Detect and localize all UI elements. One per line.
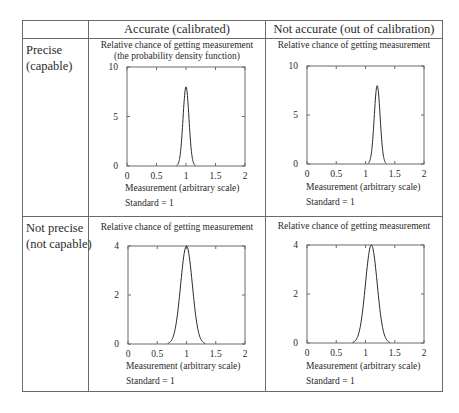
y-tick-label: 4	[293, 240, 298, 250]
plot-frame	[307, 245, 424, 343]
y-tick-label: 0	[293, 338, 298, 348]
chart-not-precise-not-accurate: 00.511.52024	[0, 0, 459, 413]
standard-annotation: Standard = 1	[306, 376, 355, 386]
x-tick-label: 0.5	[330, 348, 342, 358]
x-tick-label: 1.5	[389, 348, 401, 358]
x-tick-label: 0	[305, 348, 310, 358]
x-tick-label: 1	[363, 348, 368, 358]
y-tick-label: 2	[293, 289, 298, 299]
distribution-curve	[353, 245, 390, 342]
x-axis-label: Measurement (arbitrary scale)	[306, 361, 420, 371]
x-tick-label: 2	[422, 348, 427, 358]
